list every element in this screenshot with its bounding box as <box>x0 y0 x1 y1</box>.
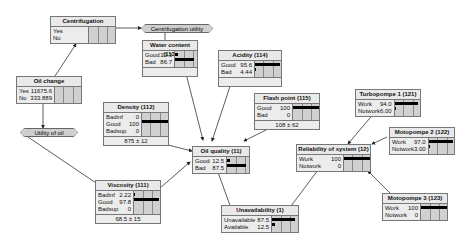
node-title: Reliability of system (12) <box>297 145 370 155</box>
state-label: Work <box>299 156 313 163</box>
probability-bars <box>133 191 160 214</box>
node-oil-change[interactable]: Oil change Yes11675.6 No333.889 <box>16 76 82 104</box>
state-label: Good <box>221 62 236 69</box>
state-label: Good <box>257 105 272 112</box>
state-value: 95.6 <box>240 62 252 69</box>
state-label: Bad <box>221 69 232 76</box>
node-acidity[interactable]: Acidity (114) Good95.6 Bad4.44 <box>218 50 282 87</box>
state-label: Notwork <box>392 146 414 153</box>
utility-centrifugation[interactable]: Centrifugation utility <box>141 24 213 33</box>
node-motopompe-3[interactable]: Motopompe 3 (123) Work100 Notwork0 <box>382 193 448 221</box>
state-value: 0 <box>338 163 341 170</box>
node-title: Centrifugation <box>51 17 115 27</box>
state-label: Good <box>195 158 210 165</box>
node-title: Motopompe 2 (122) <box>390 128 454 138</box>
state-label: Badinf <box>98 192 115 199</box>
node-centrifugation[interactable]: Centrifugation Yes No <box>50 16 116 44</box>
node-reliability-of-system[interactable]: Reliability of system (12) Work100 Notwo… <box>296 144 371 172</box>
state-value: 0 <box>128 206 131 213</box>
state-value: 87.5 <box>212 165 224 172</box>
state-label: Work <box>385 205 399 212</box>
state-value: 100 <box>129 121 139 128</box>
probability-bars <box>141 113 168 136</box>
state-value: 3.00 <box>414 146 426 153</box>
node-footer: 108 ± 62 <box>255 120 319 129</box>
probability-bars <box>226 157 249 173</box>
node-title: Oil change <box>17 77 81 87</box>
state-label: Good <box>106 121 121 128</box>
state-value: 97.8 <box>119 199 131 206</box>
state-label: Badsup <box>106 128 126 135</box>
state-label: Available <box>224 224 248 231</box>
state-value: 94.0 <box>380 101 392 108</box>
state-label: Good <box>145 52 160 59</box>
state-value: 2.22 <box>119 192 131 199</box>
node-title: Motopompe 3 (123) <box>383 194 447 204</box>
state-value: 13.3 <box>160 52 172 59</box>
node-footer <box>219 77 281 86</box>
node-title: Unavailability (1) <box>222 206 298 216</box>
state-label: Bad <box>257 112 268 119</box>
probability-bars <box>88 27 115 43</box>
state-label: Yes <box>53 28 63 35</box>
node-title: Viscosity (111) <box>96 181 160 191</box>
probability-bars <box>428 138 454 154</box>
node-title: Turbopompe 1 (121) <box>356 90 420 100</box>
probability-bars <box>54 87 81 103</box>
state-value: 0 <box>136 128 139 135</box>
state-label: Bad <box>145 59 156 66</box>
node-footer: 875 ± 12 <box>104 136 168 145</box>
node-title: Oil quality (11) <box>193 147 249 157</box>
state-label: Work <box>358 101 372 108</box>
state-label: Notwork <box>385 212 407 219</box>
state-value: 0 <box>136 114 139 121</box>
node-footer: 68.5 ± 15 <box>96 214 160 223</box>
state-value: 12.5 <box>257 224 269 231</box>
state-label: Good <box>98 199 113 206</box>
state-value: 0 <box>415 212 418 219</box>
state-value: 4.44 <box>240 69 252 76</box>
node-title: Flash point (115) <box>255 94 319 104</box>
state-label: Work <box>392 139 406 146</box>
node-density[interactable]: Density (112) Badinf0 Good100 Badsup0 87… <box>103 102 169 146</box>
node-flash-point[interactable]: Flash point (115) Good100 Bad0 108 ± 62 <box>254 93 320 130</box>
state-label: Notwork <box>358 108 380 115</box>
node-water-content[interactable]: Water content (113) Good13.3 Bad86.7 <box>142 40 198 77</box>
node-viscosity[interactable]: Viscosity (111) Badinf2.22 Good97.8 Bads… <box>95 180 161 224</box>
state-value: 0 <box>287 112 290 119</box>
state-value: 87.5 <box>257 217 269 224</box>
probability-bars <box>254 61 281 77</box>
probability-bars <box>174 51 197 67</box>
probability-bars <box>271 216 298 232</box>
utility-oil-change[interactable]: Utility of oil change <box>20 128 78 137</box>
node-unavailability[interactable]: Unavailability (1) Unavailable87.5 Avail… <box>221 205 299 233</box>
state-label: Unavailable <box>224 217 255 224</box>
state-label: Bad <box>195 165 206 172</box>
node-footer <box>143 67 197 76</box>
state-label: No <box>19 95 27 102</box>
state-value: 97.0 <box>414 139 426 146</box>
state-label: Notwork <box>299 163 321 170</box>
state-value: 333.889 <box>30 95 52 102</box>
state-value: 6.00 <box>380 108 392 115</box>
probability-bars <box>343 155 370 171</box>
state-label: No <box>53 35 61 42</box>
node-title: Density (112) <box>104 103 168 113</box>
node-title: Acidity (114) <box>219 51 281 61</box>
state-value: 12.5 <box>212 158 224 165</box>
state-value: 86.7 <box>160 59 172 66</box>
bayesian-network-canvas: Centrifugation Yes No Oil change Yes1167… <box>0 0 472 243</box>
state-value: 11675.6 <box>31 88 52 95</box>
state-label: Badinf <box>106 114 123 121</box>
state-value: 100 <box>280 105 290 112</box>
node-turbopompe-1[interactable]: Turbopompe 1 (121) Work94.0 Notwork6.00 <box>355 89 421 117</box>
probability-bars <box>420 204 447 220</box>
state-value: 100 <box>408 205 418 212</box>
node-oil-quality[interactable]: Oil quality (11) Good12.5 Bad87.5 <box>192 146 250 174</box>
probability-bars <box>292 104 319 120</box>
node-title: Water content (113) <box>143 41 197 51</box>
node-motopompe-2[interactable]: Motopompe 2 (122) Work97.0 Notwork3.00 <box>389 127 455 155</box>
probability-bars <box>394 100 420 116</box>
state-value: 100 <box>331 156 341 163</box>
state-label: Yes <box>19 88 29 95</box>
